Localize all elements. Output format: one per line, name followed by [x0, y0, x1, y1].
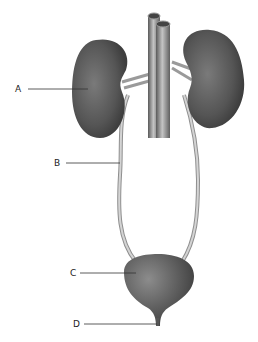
label-c: C: [70, 268, 76, 278]
urinary-system-diagram: [0, 0, 258, 342]
label-d: D: [73, 319, 80, 329]
right-kidney: [183, 30, 244, 128]
urinary-bladder: [124, 254, 194, 326]
aorta-and-vena-cava: [148, 13, 170, 138]
urethra: [156, 318, 159, 326]
label-a: A: [15, 84, 21, 94]
label-b: B: [54, 158, 60, 168]
